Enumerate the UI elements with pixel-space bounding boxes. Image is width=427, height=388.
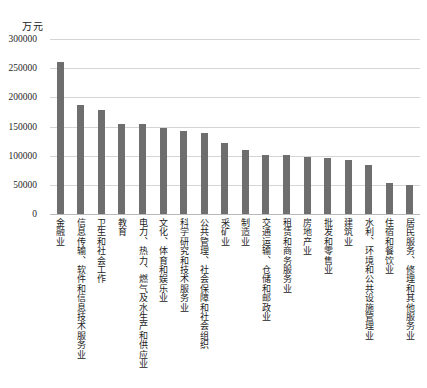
bar [283, 155, 290, 214]
bar-slot [358, 39, 379, 214]
x-axis-label-slot: 房地产业 [297, 218, 318, 386]
y-axis-tick-label: 200000 [0, 92, 37, 102]
bar-series [50, 39, 420, 214]
plot-area: 300000250000200000150000100000500000 [50, 39, 420, 214]
y-axis-tick-label: 50000 [0, 180, 37, 190]
bar [139, 124, 146, 214]
x-axis-label-slot: 建筑业 [338, 218, 359, 386]
x-axis-label-slot: 住宿和餐饮业 [379, 218, 400, 386]
x-axis-tick-label: 教育 [117, 218, 126, 386]
x-axis-label-slot: 居民服务、修理和其他服务业 [400, 218, 421, 386]
bar [345, 160, 352, 214]
x-axis-label-slot: 采矿业 [215, 218, 236, 386]
x-axis-tick-label: 公共管理、社会保障和社会组织 [200, 218, 209, 386]
bar-slot [215, 39, 236, 214]
bar-slot [235, 39, 256, 214]
x-axis-tick-label: 批发和零售业 [323, 218, 332, 386]
axis-baseline [50, 214, 420, 215]
bar [304, 157, 311, 214]
bar [406, 185, 413, 214]
x-axis-tick-label: 文化、体育和娱乐业 [159, 218, 168, 386]
bar-slot [400, 39, 421, 214]
x-axis-label-slot: 交通运输、仓储和邮政业 [256, 218, 277, 386]
y-axis-tick-label: 0 [0, 209, 37, 219]
bar-slot [256, 39, 277, 214]
bar-slot [71, 39, 92, 214]
bar-slot [317, 39, 338, 214]
x-axis-tick-label: 制造业 [241, 218, 250, 386]
bar-slot [194, 39, 215, 214]
x-axis-label-slot: 文化、体育和娱乐业 [153, 218, 174, 386]
bar-slot [338, 39, 359, 214]
y-axis-unit-label: 万元 [22, 18, 43, 33]
bar [160, 128, 167, 214]
x-axis-tick-label: 电力、热力、燃气及水生产和供应业 [138, 218, 147, 386]
x-axis-label-slot: 金融业 [50, 218, 71, 386]
y-axis-tick-label: 100000 [0, 151, 37, 161]
x-axis-label-slot: 教育 [112, 218, 133, 386]
bar-chart: 万元 300000250000200000150000100000500000 … [0, 0, 427, 388]
x-axis-tick-label: 采矿业 [220, 218, 229, 386]
x-axis-label-slot: 水利、环境和公共设施管理业 [358, 218, 379, 386]
x-axis-tick-label: 租赁和商务服务业 [282, 218, 291, 386]
bar [118, 124, 125, 214]
y-axis-tick-label: 300000 [0, 34, 37, 44]
bar-slot [173, 39, 194, 214]
bar-slot [112, 39, 133, 214]
bar-slot [153, 39, 174, 214]
bar-slot [297, 39, 318, 214]
bar-slot [50, 39, 71, 214]
x-axis-label-slot: 电力、热力、燃气及水生产和供应业 [132, 218, 153, 386]
bar-slot [132, 39, 153, 214]
bar [180, 131, 187, 214]
bar-slot [91, 39, 112, 214]
bar [262, 155, 269, 214]
y-axis-tick-label: 250000 [0, 63, 37, 73]
x-axis-labels: 金融业信息传输、软件和信息技术服务业卫生和社会工作教育电力、热力、燃气及水生产和… [50, 218, 420, 386]
bar [201, 133, 208, 214]
y-axis-tick-label: 150000 [0, 122, 37, 132]
bar [365, 165, 372, 214]
x-axis-label-slot: 信息传输、软件和信息技术服务业 [71, 218, 92, 386]
bar [98, 110, 105, 214]
x-axis-tick-label: 水利、环境和公共设施管理业 [364, 218, 373, 386]
x-axis-label-slot: 制造业 [235, 218, 256, 386]
bar [57, 62, 64, 214]
x-axis-tick-label: 卫生和社会工作 [97, 218, 106, 386]
x-axis-label-slot: 批发和零售业 [317, 218, 338, 386]
bar [386, 183, 393, 214]
bar-slot [276, 39, 297, 214]
x-axis-tick-label: 住宿和餐饮业 [385, 218, 394, 386]
bar-slot [379, 39, 400, 214]
bar [221, 143, 228, 214]
bar [77, 105, 84, 214]
x-axis-tick-label: 房地产业 [302, 218, 311, 386]
x-axis-label-slot: 卫生和社会工作 [91, 218, 112, 386]
x-axis-tick-label: 信息传输、软件和信息技术服务业 [76, 218, 85, 386]
x-axis-tick-label: 金融业 [56, 218, 65, 386]
bar [324, 158, 331, 214]
x-axis-label-slot: 科学研究和技术服务业 [173, 218, 194, 386]
bar [242, 150, 249, 214]
x-axis-label-slot: 公共管理、社会保障和社会组织 [194, 218, 215, 386]
x-axis-tick-label: 建筑业 [344, 218, 353, 386]
x-axis-label-slot: 租赁和商务服务业 [276, 218, 297, 386]
x-axis-tick-label: 交通运输、仓储和邮政业 [261, 218, 270, 386]
x-axis-tick-label: 居民服务、修理和其他服务业 [405, 218, 414, 386]
x-axis-tick-label: 科学研究和技术服务业 [179, 218, 188, 386]
